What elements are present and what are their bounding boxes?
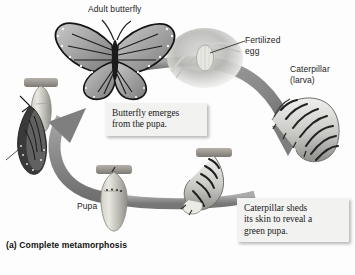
figure-caption: (a) Complete metamorphosis [6, 240, 127, 250]
label-fertilized-egg: Fertilized egg [245, 35, 280, 56]
metamorphosis-diagram: Adult butterfly Fertilized egg Caterpill… [0, 0, 355, 275]
adult-butterfly-photo [55, 20, 174, 99]
shedding-caterpillar-photo [181, 148, 232, 215]
label-caterpillar-larva: Caterpillar (larva) [290, 64, 330, 85]
pupa-chrysalis-photo [96, 165, 132, 231]
emerging-butterfly-photo [6, 78, 58, 174]
caterpillar-larva-photo [272, 98, 339, 162]
callout-caterpillar-sheds: Caterpillar sheds its skin to reveal a g… [237, 198, 349, 242]
label-adult-butterfly: Adult butterfly [88, 4, 141, 15]
fertilized-egg-photo [167, 28, 245, 88]
callout-butterfly-emerges: Butterfly emerges from the pupa. [105, 103, 207, 136]
label-pupa: Pupa [77, 201, 97, 212]
